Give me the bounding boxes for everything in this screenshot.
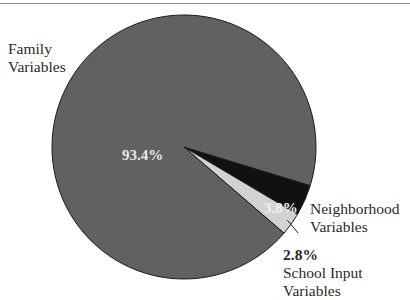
family-pct-label: 93.4% xyxy=(122,147,163,164)
family-slice xyxy=(52,15,316,279)
family-label: Family Variables xyxy=(8,40,66,76)
neighborhood-label: Neighborhood Variables xyxy=(310,200,400,236)
school-label-line2: Variables xyxy=(283,282,363,300)
neighborhood-label-line2: Variables xyxy=(310,218,400,236)
school-label-line1: School Input xyxy=(283,264,363,282)
neighborhood-pct-label: 3.8% xyxy=(264,200,298,217)
school-label: 2.8% School Input Variables xyxy=(283,246,363,300)
family-label-line1: Family xyxy=(8,40,66,58)
neighborhood-label-line1: Neighborhood xyxy=(310,200,400,218)
school-pct-label: 2.8% xyxy=(283,246,363,264)
family-label-line2: Variables xyxy=(8,58,66,76)
pie-slices xyxy=(52,15,316,279)
